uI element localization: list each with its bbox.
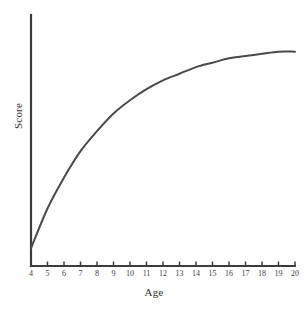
x-tick-label: 10 bbox=[122, 269, 138, 278]
x-tick-label: 5 bbox=[40, 269, 56, 278]
x-axis-title: Age bbox=[0, 286, 308, 298]
x-tick-label: 4 bbox=[23, 269, 39, 278]
x-tick-label: 20 bbox=[287, 269, 303, 278]
chart-plot-area bbox=[0, 0, 308, 315]
x-tick-label: 12 bbox=[155, 269, 171, 278]
x-tick-label: 15 bbox=[205, 269, 221, 278]
x-tick-label: 16 bbox=[221, 269, 237, 278]
x-tick-label: 9 bbox=[106, 269, 122, 278]
score-vs-age-line-chart: 4567891011121314151617181920 Age Score bbox=[0, 0, 308, 315]
x-tick-label: 17 bbox=[238, 269, 254, 278]
x-tick-label: 14 bbox=[188, 269, 204, 278]
x-tick-label: 7 bbox=[73, 269, 89, 278]
y-axis-title: Score bbox=[12, 115, 24, 129]
x-tick-label: 8 bbox=[89, 269, 105, 278]
x-tick-label: 11 bbox=[139, 269, 155, 278]
x-tick-label: 13 bbox=[172, 269, 188, 278]
x-tick-label: 6 bbox=[56, 269, 72, 278]
score-curve bbox=[31, 51, 295, 248]
x-tick-label: 18 bbox=[254, 269, 270, 278]
x-tick-label: 19 bbox=[271, 269, 287, 278]
